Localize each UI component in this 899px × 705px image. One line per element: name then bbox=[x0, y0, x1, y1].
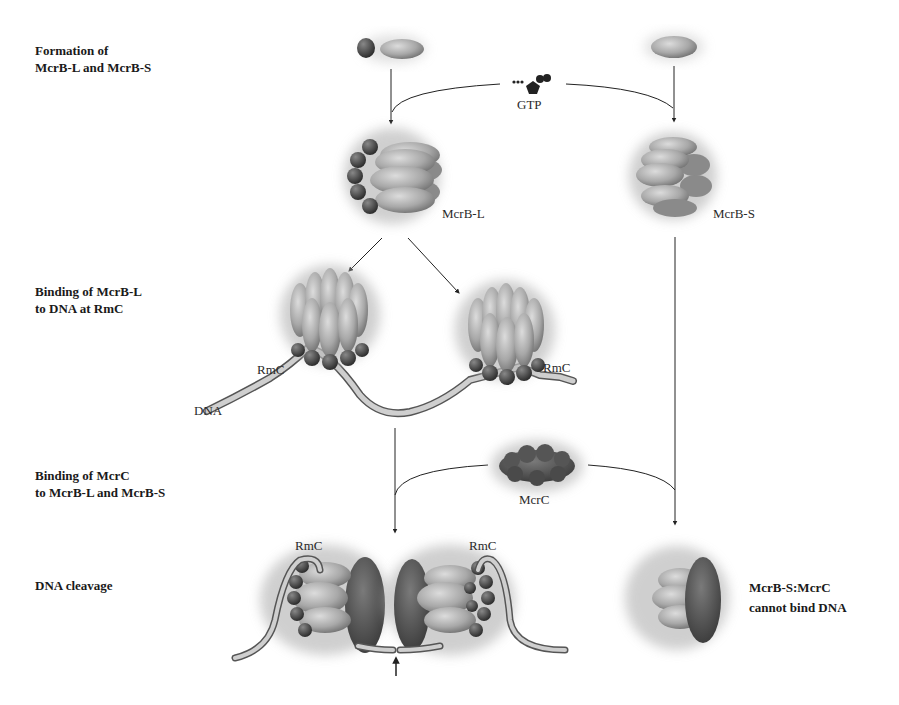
mcrb-s-mcrc-note: McrB-S:McrC cannot bind DNA bbox=[749, 578, 847, 618]
rmc-cleave-left-label: RmC bbox=[295, 538, 322, 554]
rmc-right-label: RmC bbox=[543, 360, 570, 376]
mcrb-s-monomer-icon bbox=[644, 33, 704, 61]
gtp-molecule-icon bbox=[512, 74, 551, 94]
mcrb-l-complex-icon bbox=[344, 128, 442, 224]
stage-label-formation: Formation of McrB-L and McrB-S bbox=[35, 42, 151, 76]
mcrb-s-complex-icon bbox=[629, 132, 717, 220]
stage-label-binding-dna: Binding of McrB-L to DNA at RmC bbox=[35, 283, 142, 317]
rmc-left-label: RmC bbox=[257, 362, 284, 378]
mcrc-protein-icon bbox=[491, 440, 583, 492]
dna-label: DNA bbox=[194, 403, 222, 419]
gtp-label: GTP bbox=[517, 97, 542, 113]
mcrb-l-label: McrB-L bbox=[442, 206, 485, 222]
stage-label-cleavage: DNA cleavage bbox=[35, 577, 113, 594]
mcrb-s-mcrc-complex-icon bbox=[625, 546, 729, 650]
mcrb-s-label: McrB-S bbox=[713, 206, 755, 222]
mcrc-label: McrC bbox=[519, 492, 549, 508]
mcrb-l-monomer-icon bbox=[357, 35, 426, 63]
mcrb-l-bound-right-icon bbox=[455, 280, 555, 385]
stage-label-binding-mcrc: Binding of McrC to McrB-L and McrB-S bbox=[35, 467, 165, 501]
mcrb-l-bound-left-icon bbox=[280, 265, 380, 370]
rmc-cleave-right-label: RmC bbox=[469, 538, 496, 554]
